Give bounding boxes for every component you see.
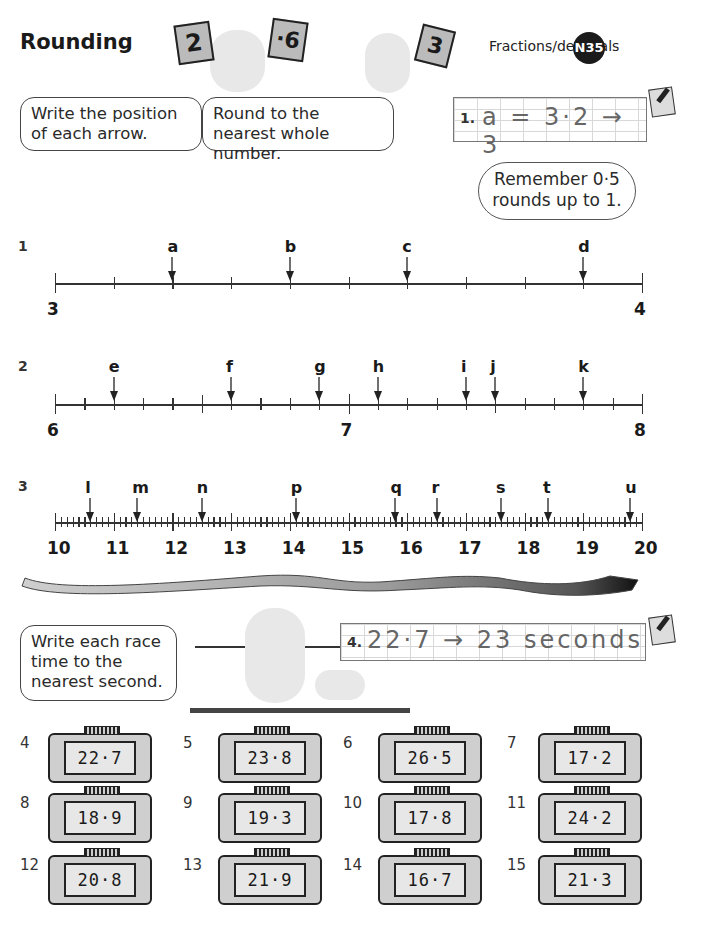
- arrow-label: e: [109, 357, 120, 376]
- stopwatch-display: 26·5: [394, 741, 466, 775]
- minor-tick: [530, 517, 531, 527]
- example-number: 1.: [460, 110, 475, 126]
- dogs-illustration: 2 ·6 3: [170, 5, 440, 95]
- arrow-label: f: [226, 357, 233, 376]
- stopwatch: 21·3: [538, 855, 642, 905]
- minor-tick: [343, 517, 344, 527]
- stopwatch: 21·9: [218, 855, 322, 905]
- minor-tick: [636, 517, 637, 527]
- minor-tick: [472, 517, 473, 527]
- instruction-bubble-round: Round to the nearest whole number.: [202, 97, 394, 151]
- question-number: 2: [18, 358, 28, 374]
- down-arrow-icon: [578, 257, 588, 281]
- stopwatch-buttons: [574, 848, 610, 857]
- stopwatch: 24·2: [538, 793, 642, 843]
- tick-label: 8: [634, 420, 646, 440]
- stopwatch-buttons: [574, 786, 610, 795]
- tick-label: 19: [575, 538, 599, 558]
- tick-label: 4: [634, 299, 646, 319]
- minor-tick: [73, 517, 74, 527]
- down-arrow-icon: [432, 498, 442, 522]
- minor-tick: [190, 517, 191, 527]
- down-arrow-icon: [197, 498, 207, 522]
- minor-tick: [325, 517, 326, 527]
- minor-tick: [155, 517, 156, 527]
- minor-tick: [67, 517, 68, 527]
- example-text: a = 3·2 → 3: [482, 103, 646, 159]
- minor-tick: [219, 517, 220, 527]
- divider-stripe: [20, 570, 660, 600]
- timer-question-number: 7: [507, 734, 517, 752]
- dog-figure: [210, 30, 265, 92]
- stopwatch-display: 19·3: [234, 801, 306, 835]
- arrow-label: g: [314, 357, 325, 376]
- major-tick: [583, 513, 584, 531]
- timer-question-number: 5: [183, 734, 193, 752]
- tick-label: 11: [106, 538, 130, 558]
- stopwatch: 16·7: [378, 855, 482, 905]
- minor-tick: [478, 517, 479, 527]
- timer-question-number: 6: [343, 734, 353, 752]
- down-arrow-icon: [109, 377, 119, 401]
- minor-tick: [437, 398, 438, 410]
- stopwatch-buttons: [84, 726, 120, 735]
- minor-tick: [442, 517, 443, 527]
- stopwatch-display: 18·9: [64, 801, 136, 835]
- minor-tick: [78, 517, 79, 527]
- down-arrow-icon: [578, 377, 588, 401]
- stopwatch-buttons: [254, 848, 290, 857]
- minor-tick: [513, 517, 514, 527]
- page-title: Rounding: [20, 30, 133, 54]
- minor-tick: [284, 517, 285, 527]
- stopwatch-display: 21·9: [234, 863, 306, 897]
- stopwatch: 18·9: [48, 793, 152, 843]
- minor-tick: [307, 517, 308, 527]
- tick-label: 14: [282, 538, 306, 558]
- minor-tick: [489, 517, 490, 527]
- stopwatch-display: 16·7: [394, 863, 466, 897]
- arrow-label: q: [390, 478, 401, 497]
- tick-label: 7: [341, 420, 353, 440]
- minor-tick: [143, 398, 144, 410]
- minor-tick: [319, 517, 320, 527]
- timer-question-number: 12: [20, 856, 39, 874]
- instruction-bubble-position: Write the position of each arrow.: [20, 97, 202, 151]
- reminder-cloud: Remember 0·5 rounds up to 1.: [478, 162, 636, 220]
- stopwatch-buttons: [254, 786, 290, 795]
- arrow-label: l: [85, 478, 90, 497]
- down-arrow-icon: [85, 498, 95, 522]
- example-answer-box: 1. a = 3·2 → 3: [453, 97, 647, 142]
- minor-tick: [184, 517, 185, 527]
- minor-tick: [619, 517, 620, 527]
- tick-label: 13: [223, 538, 247, 558]
- minor-tick: [566, 517, 567, 527]
- minor-tick: [272, 517, 273, 527]
- down-arrow-icon: [226, 377, 236, 401]
- stopwatch-buttons: [254, 726, 290, 735]
- arrow-label: u: [625, 478, 636, 497]
- major-tick: [642, 394, 643, 414]
- major-tick: [55, 394, 56, 414]
- stopwatch: 20·8: [48, 855, 152, 905]
- timer-question-number: 4: [20, 734, 30, 752]
- race-example-number: 4.: [347, 634, 362, 650]
- tick-label: 17: [458, 538, 482, 558]
- minor-tick: [360, 517, 361, 527]
- major-tick: [349, 394, 350, 414]
- down-arrow-icon: [461, 377, 471, 401]
- down-arrow-icon: [373, 377, 383, 401]
- race-instruction-bubble: Write each race time to the nearest seco…: [20, 625, 177, 701]
- arrow-label: d: [578, 237, 589, 256]
- minor-tick: [372, 517, 373, 527]
- minor-tick: [167, 517, 168, 527]
- down-arrow-icon: [490, 377, 500, 401]
- stopwatch: 23·8: [218, 733, 322, 783]
- minor-tick: [260, 398, 261, 410]
- minor-tick: [413, 517, 414, 527]
- down-arrow-icon: [625, 498, 635, 522]
- down-arrow-icon: [291, 498, 301, 522]
- arrow-label: m: [132, 478, 149, 497]
- minor-tick: [536, 517, 537, 527]
- minor-tick: [266, 517, 267, 527]
- dog-figure: [365, 33, 410, 93]
